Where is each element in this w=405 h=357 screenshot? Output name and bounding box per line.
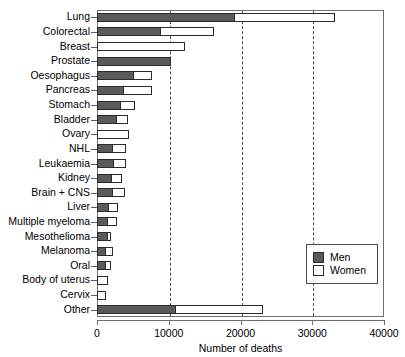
y-axis-label-brain-cns: Brain + CNS (31, 187, 90, 198)
bar-segment-women (123, 86, 152, 95)
bar-segment-men (97, 57, 171, 66)
bar-segment-women (97, 276, 108, 285)
bar-segment-women (111, 174, 122, 183)
x-tick-0 (97, 320, 98, 325)
y-axis-label-prostate: Prostate (51, 55, 90, 66)
bar-segment-women (120, 101, 135, 110)
y-axis-label-other: Other (64, 304, 90, 315)
y-tick (91, 17, 97, 18)
y-tick (91, 105, 97, 106)
y-tick (91, 310, 97, 311)
bar-segment-women (175, 305, 264, 314)
legend: Men Women (306, 244, 378, 284)
y-tick (91, 251, 97, 252)
y-tick (91, 266, 97, 267)
x-tick-20000 (241, 320, 242, 325)
y-tick (91, 61, 97, 62)
bar-segment-men (97, 27, 161, 36)
y-axis-label-colorectal: Colorectal (43, 26, 90, 37)
y-axis-label-ovary: Ovary (62, 128, 90, 139)
bar-segment-women (112, 188, 125, 197)
y-axis-label-multiple-myeloma: Multiple myeloma (8, 216, 90, 227)
legend-entry-women: Women (313, 265, 371, 276)
y-tick (91, 295, 97, 296)
y-axis-label-oesophagus: Oesophagus (30, 70, 90, 81)
y-axis-label-melanoma: Melanoma (41, 245, 90, 256)
bar-segment-women (116, 115, 128, 124)
y-tick (91, 178, 97, 179)
y-axis-label-lung: Lung (67, 11, 90, 22)
y-tick (91, 134, 97, 135)
x-tick-label-20000: 20000 (226, 327, 255, 339)
y-axis-label-stomach: Stomach (49, 99, 90, 110)
bar-segment-men (97, 115, 117, 124)
y-axis-label-pancreas: Pancreas (46, 84, 90, 95)
y-tick (91, 164, 97, 165)
bar-segment-women (160, 27, 214, 36)
x-axis-title: Number of deaths (97, 342, 384, 354)
men-swatch-icon (313, 252, 324, 263)
bar-segment-women (97, 42, 185, 51)
y-axis-label-nhl: NHL (69, 143, 90, 154)
y-axis-label-body-of-uterus: Body of uterus (22, 274, 90, 285)
x-tick-label-30000: 30000 (298, 327, 327, 339)
y-axis-label-oral: Oral (70, 260, 90, 271)
x-tick-30000 (312, 320, 313, 325)
y-tick (91, 76, 97, 77)
y-axis-label-leukaemia: Leukaemia (39, 158, 90, 169)
y-axis-label-bladder: Bladder (54, 114, 90, 125)
legend-label-women: Women (330, 265, 366, 276)
bar-segment-women (107, 217, 117, 226)
legend-label-men: Men (330, 252, 350, 263)
y-tick (91, 193, 97, 194)
bar-segment-women (107, 232, 110, 241)
bar-segment-men (97, 71, 134, 80)
bar-segment-men (97, 174, 112, 183)
bar-segment-women (97, 291, 106, 300)
y-axis-label-liver: Liver (67, 201, 90, 212)
y-tick (91, 237, 97, 238)
bar-segment-men (97, 86, 124, 95)
bar-segment-women (97, 130, 129, 139)
bar-segment-men (97, 159, 114, 168)
bar-segment-men (97, 188, 113, 197)
bar-segment-women (113, 159, 126, 168)
y-tick (91, 149, 97, 150)
women-swatch-icon (313, 265, 324, 276)
y-axis-label-breast: Breast (60, 41, 90, 52)
bar-segment-women (112, 144, 126, 153)
bar-segment-women (105, 247, 113, 256)
y-tick (91, 90, 97, 91)
x-tick-40000 (384, 320, 385, 325)
y-tick (91, 47, 97, 48)
y-axis-label-kidney: Kidney (58, 172, 90, 183)
bar-segment-women (105, 261, 111, 270)
bar-segment-women (133, 71, 151, 80)
y-axis-label-mesothelioma: Mesothelioma (25, 231, 90, 242)
y-tick (91, 32, 97, 33)
x-tick-label-10000: 10000 (154, 327, 183, 339)
bar-segment-men (97, 305, 176, 314)
x-tick-label-40000: 40000 (369, 327, 398, 339)
legend-entry-men: Men (313, 252, 371, 263)
y-tick (91, 222, 97, 223)
y-tick (91, 280, 97, 281)
x-tick-label-0: 0 (94, 327, 100, 339)
bar-segment-men (97, 13, 235, 22)
bar-segment-men (97, 101, 121, 110)
bar-segment-women (234, 13, 335, 22)
bar-segment-women (108, 203, 118, 212)
chart-figure: LungColorectalBreastProstateOesophagusPa… (0, 0, 405, 357)
y-tick (91, 207, 97, 208)
y-tick (91, 120, 97, 121)
y-axis-label-cervix: Cervix (60, 289, 90, 300)
x-tick-10000 (169, 320, 170, 325)
bar-segment-men (97, 144, 113, 153)
